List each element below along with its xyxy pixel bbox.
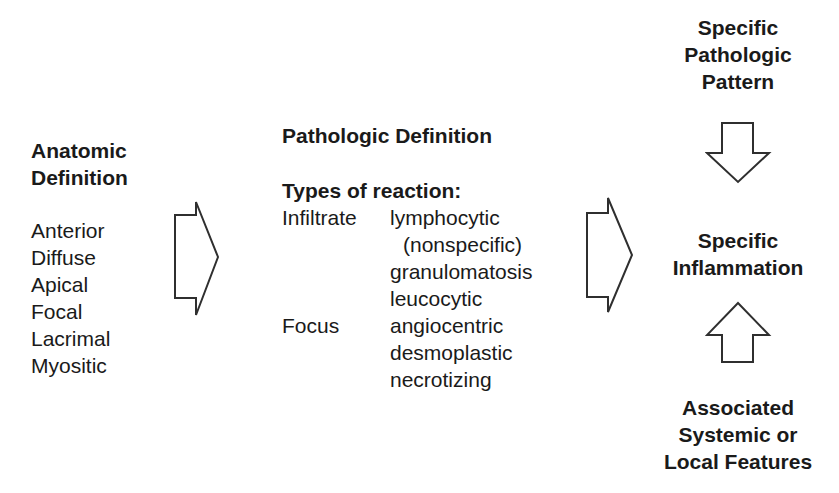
right-block-arrow-icon [585,192,635,317]
reaction-row-value: angiocentric [390,312,532,339]
reaction-row-value: leucocytic [390,285,532,312]
anatomic-item: Focal [31,298,110,325]
anatomic-item: Apical [31,271,110,298]
specific-pathologic-pattern-heading: Specific Pathologic Pattern [648,14,828,95]
right-block-arrow-icon [173,196,221,318]
reaction-row-label [282,231,390,258]
reaction-row-label [282,339,390,366]
heading-line: Pathologic [648,41,828,68]
anatomic-item: Lacrimal [31,325,110,352]
reaction-types-table: Infiltrate lymphocytic (nonspecific) gra… [282,204,532,393]
reaction-row-label [282,285,390,312]
reaction-row-value: granulomatosis [390,258,532,285]
reaction-row-label: Infiltrate [282,204,390,231]
types-of-reaction-subheading: Types of reaction: [282,177,461,204]
heading-line: Pattern [648,68,828,95]
specific-inflammation-heading: Specific Inflammation [648,227,828,281]
anatomic-items-list: Anterior Diffuse Apical Focal Lacrimal M… [31,217,110,379]
pathologic-definition-heading: Pathologic Definition [282,122,492,149]
associated-features-heading: Associated Systemic or Local Features [648,394,828,475]
heading-line: Systemic or [648,421,828,448]
reaction-row-value: lymphocytic [390,204,532,231]
pathology-flow-diagram: Anatomic Definition Anterior Diffuse Api… [0,0,839,493]
reaction-row-label [282,258,390,285]
anatomic-heading-line-1: Anatomic [31,137,128,164]
down-block-arrow-icon [705,121,772,184]
anatomic-item: Myositic [31,352,110,379]
reaction-row-value: (nonspecific) [390,231,532,258]
reaction-row-label: Focus [282,312,390,339]
up-block-arrow-icon [705,301,772,364]
anatomic-item: Anterior [31,217,110,244]
anatomic-item: Diffuse [31,244,110,271]
reaction-row-value: desmoplastic [390,339,532,366]
anatomic-definition-heading: Anatomic Definition [31,137,128,191]
heading-line: Local Features [648,448,828,475]
reaction-row-label [282,366,390,393]
anatomic-heading-line-2: Definition [31,164,128,191]
reaction-row-value: necrotizing [390,366,532,393]
heading-line: Inflammation [648,254,828,281]
heading-line: Specific [648,14,828,41]
heading-line: Associated [648,394,828,421]
heading-line: Specific [648,227,828,254]
